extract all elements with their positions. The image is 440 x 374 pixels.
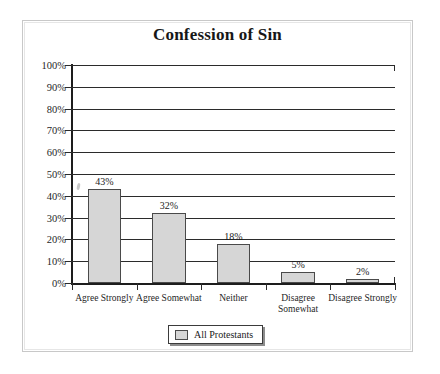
y-tick-90% [65, 87, 72, 88]
bar-disagree-somewhat [281, 272, 315, 283]
x-axis-label-agree-strongly: Agree Strongly [75, 293, 133, 304]
x-axis-label-line: Disagree Strongly [328, 293, 397, 303]
chart-screenshot: Confession of Sin 0%10%20%30%40%50%60%70… [0, 0, 440, 374]
y-axis-label: 60% [24, 147, 66, 158]
x-axis-label-disagree-strongly: Disagree Strongly [328, 293, 397, 304]
bar-value-label: 18% [224, 231, 242, 242]
y-axis-label: 10% [24, 256, 66, 267]
y-axis-label: 100% [24, 60, 66, 71]
plot-edge-tick [394, 277, 395, 283]
y-axis-label: 30% [24, 212, 66, 223]
gridline-100% [72, 65, 395, 66]
gridline-60% [72, 152, 395, 153]
legend-swatch-all-protestants [175, 330, 188, 340]
x-tick [330, 283, 331, 290]
x-tick [137, 283, 138, 290]
y-tick-40% [65, 196, 72, 197]
x-axis-label-line: Disagree [281, 293, 315, 303]
y-axis-labels: 0%10%20%30%40%50%60%70%80%90%100% [22, 65, 66, 283]
y-tick-70% [65, 130, 72, 131]
y-tick-0% [65, 283, 72, 284]
chart-legend: All Protestants [168, 325, 263, 344]
y-tick-100% [65, 65, 72, 66]
bar-agree-somewhat [152, 213, 186, 283]
chart-title: Confession of Sin [22, 25, 413, 45]
gridline-70% [72, 130, 395, 131]
y-axis-label: 40% [24, 190, 66, 201]
y-axis-label: 90% [24, 81, 66, 92]
x-tick [72, 283, 73, 290]
x-axis-label-line: Agree Somewhat [136, 293, 202, 303]
bar-agree-strongly [88, 189, 122, 283]
plot-area: 43%32%18%5%2% [72, 65, 395, 283]
plot-edge-tick [394, 65, 395, 71]
x-axis-label-disagree-somewhat: DisagreeSomewhat [278, 293, 318, 315]
gridline-90% [72, 87, 395, 88]
y-axis-label: 20% [24, 234, 66, 245]
y-axis-label: 0% [24, 278, 66, 289]
x-axis-label-agree-somewhat: Agree Somewhat [136, 293, 202, 304]
bar-value-label: 32% [160, 200, 178, 211]
y-tick-80% [65, 109, 72, 110]
y-tick-20% [65, 239, 72, 240]
y-axis-label: 80% [24, 103, 66, 114]
gridline-80% [72, 109, 395, 110]
y-tick-50% [65, 174, 72, 175]
x-axis-label-line: Somewhat [278, 304, 318, 314]
bar-disagree-strongly [346, 279, 380, 283]
bar-value-label: 2% [356, 266, 369, 277]
bar-value-label: 43% [95, 176, 113, 187]
gridline-0% [72, 283, 395, 285]
x-axis-label-line: Agree Strongly [75, 293, 133, 303]
x-axis-label-neither: Neither [219, 293, 248, 304]
x-tick [201, 283, 202, 290]
bar-neither [217, 244, 251, 283]
y-tick-30% [65, 218, 72, 219]
legend-label-all-protestants: All Protestants [194, 329, 253, 340]
y-tick-60% [65, 152, 72, 153]
bar-value-label: 5% [291, 259, 304, 270]
y-axis-label: 70% [24, 125, 66, 136]
y-axis-label: 50% [24, 169, 66, 180]
gridline-50% [72, 174, 395, 175]
x-tick [395, 283, 396, 290]
x-axis-label-line: Neither [219, 293, 248, 303]
y-tick-10% [65, 261, 72, 262]
x-tick [266, 283, 267, 290]
